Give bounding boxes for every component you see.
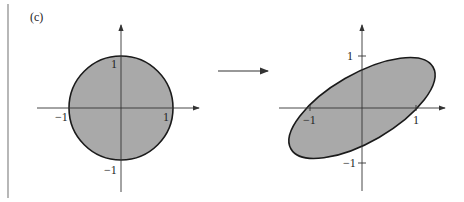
panel-label: (c) [30,10,43,24]
tick-label-y-pos: 1 [347,49,353,63]
tick-label-y-neg: −1 [343,156,356,170]
diagram: (c) 1 −1 1 −1 1 −1 1 −1 [0,0,464,202]
tick-label-x-pos: 1 [413,113,419,127]
tick-label-y-pos: 1 [111,57,117,71]
right-plot: 1 −1 1 −1 [274,25,450,191]
tick-label-x-pos: 1 [163,110,169,124]
tick-label-x-neg: −1 [303,113,316,127]
tick-label-y-neg: −1 [104,163,117,177]
tick-label-x-neg: −1 [55,110,68,124]
left-plot: 1 −1 1 −1 [37,25,199,192]
